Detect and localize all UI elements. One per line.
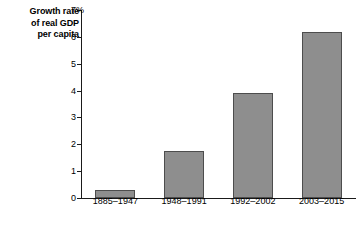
y-axis-line — [81, 10, 82, 199]
y-axis-tick-mark — [77, 37, 81, 38]
y-axis-tick-mark — [77, 171, 81, 172]
bar — [233, 93, 273, 198]
y-axis-tick-mark — [77, 64, 81, 65]
bar-chart: Growth rate of real GDP per capita 01234… — [0, 0, 362, 233]
y-axis-title-line-1: Growth rate — [6, 6, 79, 18]
x-axis-tick-label: 2003–2015 — [272, 196, 362, 206]
y-axis-title: Growth rate of real GDP per capita — [6, 6, 79, 41]
plot-area: 01234567% — [81, 10, 356, 199]
y-axis-title-line-2: of real GDP — [6, 18, 79, 30]
y-axis-title-line-3: per capita — [6, 29, 79, 41]
y-axis-tick-mark — [77, 91, 81, 92]
bar — [164, 151, 204, 198]
y-axis-tick-mark — [77, 117, 81, 118]
bar — [302, 32, 342, 199]
y-axis-tick-mark — [77, 144, 81, 145]
